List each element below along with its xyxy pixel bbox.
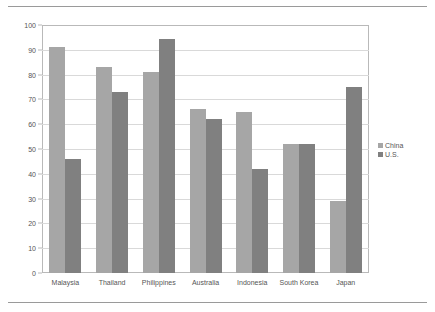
x-axis-category-label: Japan [336,279,355,286]
bar-chart: 0102030405060708090100 MalaysiaThailandP… [42,25,369,273]
bar-group: Philippines [135,25,182,273]
y-axis-tick-label: 10 [28,245,36,252]
bar-us-malaysia [65,159,81,273]
x-axis-category-label: South Korea [279,279,318,286]
bottom-divider [8,302,427,303]
bar-groups: MalaysiaThailandPhilippinesAustraliaIndo… [42,25,369,273]
legend-item-us: U.S. [378,150,403,159]
bar-us-south-korea [299,144,315,273]
y-axis-tick-label: 90 [28,46,36,53]
bar-us-philippines [159,39,175,273]
x-axis-category-label: Australia [192,279,219,286]
y-axis-tick-label: 0 [32,270,36,277]
y-axis-tick-label: 80 [28,71,36,78]
bar-us-thailand [112,92,128,273]
legend-item-china: China [378,141,403,150]
legend-label-us: U.S. [385,150,399,159]
y-axis-tick-label: 70 [28,96,36,103]
bar-us-australia [206,119,222,273]
bar-group: Malaysia [42,25,89,273]
bar-china-thailand [96,67,112,273]
chart-page: 0102030405060708090100 MalaysiaThailandP… [0,0,435,312]
y-axis-tick-label: 40 [28,170,36,177]
bar-group: South Korea [276,25,323,273]
bar-us-japan [346,87,362,273]
x-axis-category-label: Thailand [99,279,126,286]
chart-legend: China U.S. [378,141,403,159]
legend-swatch-us [378,152,383,157]
bar-group: Australia [182,25,229,273]
y-axis-tick-label: 20 [28,220,36,227]
bar-china-australia [190,109,206,273]
x-axis-category-label: Malaysia [52,279,80,286]
bar-china-japan [330,201,346,273]
bar-group: Indonesia [229,25,276,273]
top-divider [8,6,427,7]
bar-china-malaysia [49,47,65,273]
legend-label-china: China [385,141,403,150]
bar-us-indonesia [252,169,268,273]
legend-swatch-china [378,143,383,148]
bar-group: Thailand [89,25,136,273]
bar-group: Japan [322,25,369,273]
y-axis-tick-label: 100 [24,22,36,29]
x-axis-category-label: Philippines [142,279,176,286]
y-axis-tick-label: 50 [28,146,36,153]
y-axis-tick-label: 30 [28,195,36,202]
y-axis-tick-label: 60 [28,121,36,128]
bar-china-south-korea [283,144,299,273]
x-axis-category-label: Indonesia [237,279,267,286]
bar-china-indonesia [236,112,252,273]
bar-china-philippines [143,72,159,273]
